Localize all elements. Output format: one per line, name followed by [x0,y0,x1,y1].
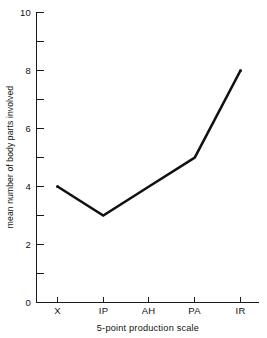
y-tick-label-10: 10 [20,7,31,18]
line-chart-figure: 10 8 6 4 2 0 X IP AH PA IR m [0,0,267,338]
y-tick-label-0: 0 [26,297,31,308]
y-tick-labels: 10 8 6 4 2 0 [20,7,31,308]
data-point-X [56,185,59,188]
y-tick-marks [37,13,44,274]
x-tick-label-X: X [54,305,61,316]
x-tick-labels: X IP AH PA IR [54,305,245,316]
y-tick-label-4: 4 [26,181,31,192]
data-series-points [56,69,242,188]
y-tick-label-2: 2 [26,239,31,250]
x-tick-label-IR: IR [236,305,246,316]
x-tick-label-IP: IP [99,305,108,316]
y-tick-label-8: 8 [26,65,31,76]
data-series-group [56,69,242,216]
data-point-IR [239,69,242,72]
x-tick-label-AH: AH [142,305,156,316]
y-axis-title: mean number of body parts involved [5,86,15,229]
data-series-line [58,71,241,216]
x-tick-marks [58,297,241,303]
chart-canvas: 10 8 6 4 2 0 X IP AH PA IR m [0,0,267,338]
axis-group [37,12,260,303]
x-axis-title: 5-point production scale [97,323,199,333]
y-tick-label-6: 6 [26,123,31,134]
x-tick-label-PA: PA [188,305,201,316]
